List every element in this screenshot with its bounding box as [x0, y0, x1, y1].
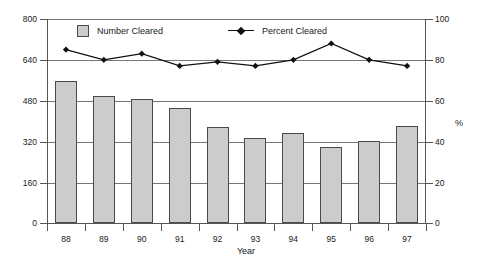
tickmark-left-320: [40, 142, 47, 143]
xaxis-label-97: 97: [387, 234, 427, 244]
gridline-640: [48, 60, 425, 61]
bar-93: [244, 138, 266, 223]
xtick-10: [426, 224, 427, 231]
xtick-6: [274, 224, 275, 231]
bar-91: [169, 108, 191, 223]
xtick-4: [199, 224, 200, 231]
ytick-label-right-60: 60: [435, 96, 475, 106]
ytick-label-160: 160: [0, 178, 37, 188]
ytick-label-right-80: 80: [435, 55, 475, 65]
tickmark-right-0: [426, 223, 433, 224]
tickmark-left-160: [40, 183, 47, 184]
tickmark-right-80: [426, 60, 433, 61]
tickmark-left-800: [40, 19, 47, 20]
xtick-0: [47, 224, 48, 231]
tickmark-right-60: [426, 101, 433, 102]
xaxis-label-90: 90: [122, 234, 162, 244]
xaxis-label-96: 96: [349, 234, 389, 244]
xaxis-label-92: 92: [198, 234, 238, 244]
ytick-label-480: 480: [0, 96, 37, 106]
xtick-7: [312, 224, 313, 231]
bar-90: [131, 99, 153, 223]
xtick-9: [388, 224, 389, 231]
ytick-label-0: 0: [0, 218, 37, 228]
chart-container: Number Cleared Percent Cleared 800 640 4…: [0, 0, 492, 266]
xtick-5: [237, 224, 238, 231]
xtick-2: [123, 224, 124, 231]
ytick-label-800: 800: [0, 14, 37, 24]
tickmark-left-0: [40, 223, 47, 224]
tickmark-right-100: [426, 19, 433, 20]
xaxis-label-88: 88: [46, 234, 86, 244]
ytick-label-right-40: 40: [435, 137, 475, 147]
xtick-3: [161, 224, 162, 231]
tickmark-left-480: [40, 101, 47, 102]
ytick-label-640: 640: [0, 55, 37, 65]
bar-92: [207, 127, 229, 223]
tickmark-left-640: [40, 60, 47, 61]
right-axis-title: %: [455, 118, 463, 128]
bar-97: [396, 126, 418, 223]
bar-89: [93, 96, 115, 224]
tickmark-right-40: [426, 142, 433, 143]
xaxis-label-93: 93: [235, 234, 275, 244]
bar-96: [358, 141, 380, 223]
bar-95: [320, 147, 342, 223]
bar-88: [55, 81, 77, 223]
xaxis-label-91: 91: [160, 234, 200, 244]
ytick-label-right-100: 100: [435, 14, 475, 24]
xaxis-label-94: 94: [273, 234, 313, 244]
xaxis-label-89: 89: [84, 234, 124, 244]
x-axis-title: Year: [0, 246, 492, 256]
xtick-1: [85, 224, 86, 231]
ytick-label-320: 320: [0, 137, 37, 147]
ytick-label-right-20: 20: [435, 178, 475, 188]
xtick-8: [350, 224, 351, 231]
xaxis-label-95: 95: [311, 234, 351, 244]
tickmark-right-20: [426, 183, 433, 184]
bar-94: [282, 133, 304, 223]
ytick-label-right-0: 0: [435, 218, 475, 228]
gridline-800: [48, 19, 425, 20]
